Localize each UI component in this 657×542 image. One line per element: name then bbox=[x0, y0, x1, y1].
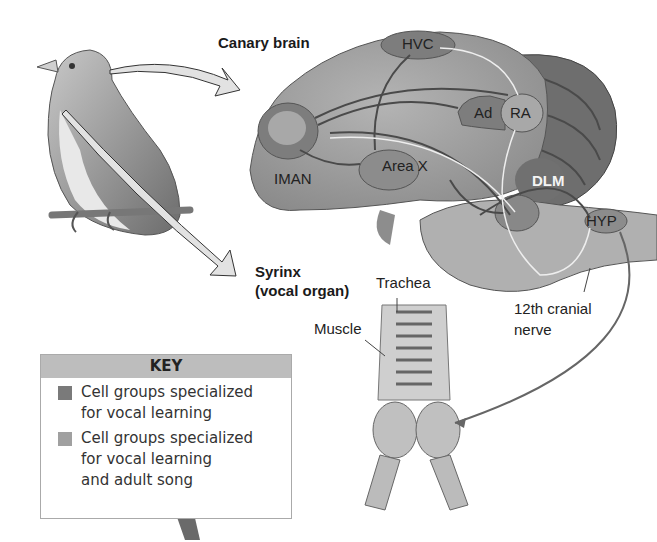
arrow-to-brain-icon bbox=[110, 64, 240, 96]
swatch-dark-icon bbox=[58, 386, 72, 400]
key-title: KEY bbox=[41, 355, 291, 378]
label-hyp: HYP bbox=[586, 212, 617, 229]
label-area-x: Area X bbox=[382, 157, 428, 174]
label-dlm: DLM bbox=[532, 172, 565, 189]
label-canary-brain: Canary brain bbox=[218, 34, 310, 51]
canary-brain-illustration bbox=[250, 31, 657, 291]
label-trachea: Trachea bbox=[376, 274, 430, 291]
label-hvc: HVC bbox=[402, 35, 434, 52]
label-iman: IMAN bbox=[274, 170, 312, 187]
key-legend: KEY Cell groups specialized for vocal le… bbox=[40, 354, 292, 519]
label-vocal-organ: (vocal organ) bbox=[255, 282, 349, 299]
key-item-vocal-learning: Cell groups specialized for vocal learni… bbox=[41, 382, 291, 424]
key-item-vocal-learning-adult-song: Cell groups specialized for vocal learni… bbox=[41, 428, 291, 491]
label-ad: Ad bbox=[474, 104, 492, 121]
swatch-light-icon bbox=[58, 432, 72, 446]
label-12th-cranial: 12th cranial bbox=[514, 300, 592, 317]
label-ra: RA bbox=[510, 104, 531, 121]
label-nerve: nerve bbox=[514, 321, 552, 338]
label-syrinx: Syrinx bbox=[255, 263, 301, 280]
label-muscle: Muscle bbox=[314, 320, 362, 337]
